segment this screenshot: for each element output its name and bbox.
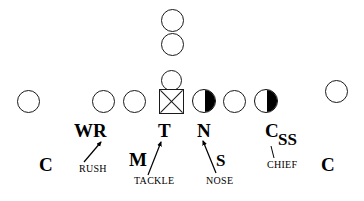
leader-rush — [84, 142, 101, 162]
football-formation-diagram: WR T N C SS M S C C RUSH TACKLE NOSE CHI… — [0, 0, 364, 201]
leader-tackle — [148, 142, 161, 175]
leader-chief — [271, 146, 274, 158]
callout-leader-lines — [0, 0, 364, 201]
leader-nose — [203, 141, 216, 173]
